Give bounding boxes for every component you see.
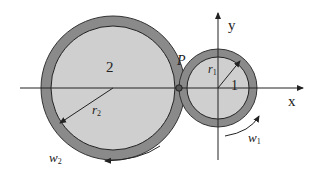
contact-point-label: P — [177, 54, 186, 68]
radius-r2-label: r2 — [92, 103, 101, 118]
gear-1-label: 1 — [231, 79, 238, 93]
omega-2-label: w2 — [49, 151, 62, 166]
x-axis-label: x — [288, 94, 296, 109]
contact-point — [176, 85, 182, 91]
gear-diagram — [0, 0, 320, 172]
omega-1-label: w1 — [248, 131, 261, 146]
radius-r1-label: r1 — [208, 63, 217, 77]
y-axis-label: y — [228, 18, 236, 33]
gear-2-label: 2 — [106, 60, 114, 75]
